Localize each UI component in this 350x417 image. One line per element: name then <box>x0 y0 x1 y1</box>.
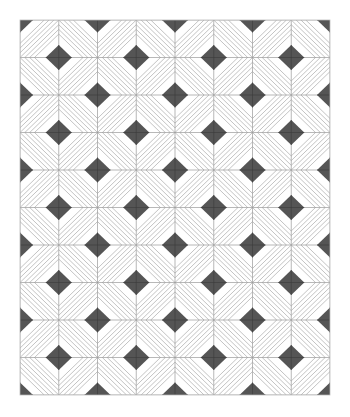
pattern-group <box>7 8 343 408</box>
tile-pattern <box>0 0 350 417</box>
pattern-canvas <box>0 0 350 417</box>
